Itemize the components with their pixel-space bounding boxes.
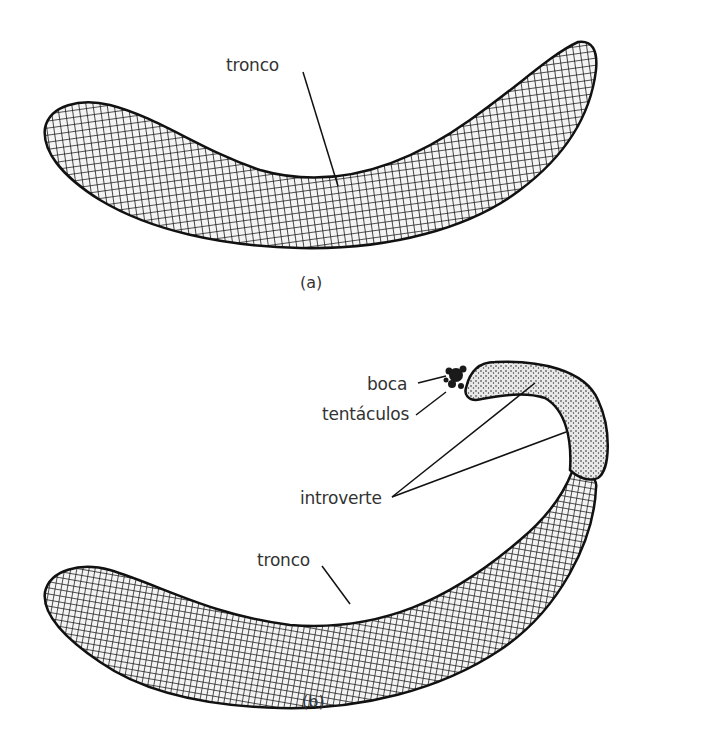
leader-line-trunk-a — [303, 72, 338, 186]
leader-line-introvert-2 — [392, 432, 566, 497]
leader-line-mouth — [418, 376, 446, 383]
caption-b: (b) — [302, 692, 325, 712]
leader-line-introvert-1 — [392, 383, 535, 497]
label-mouth: boca — [367, 374, 407, 394]
caption-a: (a) — [300, 273, 322, 293]
label-introvert: introverte — [300, 488, 382, 508]
label-trunk-b: tronco — [257, 550, 310, 570]
mouth-tentacles-cluster — [444, 366, 467, 390]
leader-line-tentacles — [416, 392, 446, 415]
worm-a-trunk — [45, 42, 597, 248]
label-trunk-a: tronco — [226, 55, 279, 75]
label-tentacles: tentáculos — [322, 404, 409, 424]
figure: tronco (a) boca tentáculos introverte tr… — [0, 0, 702, 742]
leader-line-trunk-b — [322, 566, 350, 604]
worm-illustrations — [0, 0, 702, 742]
